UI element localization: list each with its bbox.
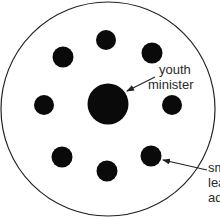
seating-diagram: youth minister sm lea ad	[0, 0, 220, 218]
small-group-leader-label: sm lea ad	[208, 160, 220, 205]
person-dot-top-right	[142, 43, 163, 64]
youth-minister-dot	[88, 84, 129, 125]
person-dot-bottom-center	[97, 161, 118, 182]
person-dot-right	[162, 95, 182, 115]
youth-minister-label: youth minister	[148, 62, 194, 92]
person-dot-top	[96, 30, 116, 50]
person-dot-bottom-left	[52, 147, 73, 168]
small-group-leader-arrow	[163, 160, 207, 170]
person-dot-left	[34, 95, 54, 115]
person-dot-top-left	[53, 47, 74, 68]
person-dot-bottom-right	[141, 146, 162, 167]
